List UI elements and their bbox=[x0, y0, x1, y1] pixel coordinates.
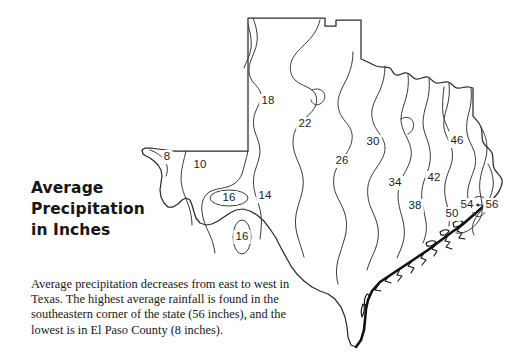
contour-label-22-6: 22 bbox=[299, 117, 312, 129]
contour-label-46-12: 46 bbox=[451, 134, 464, 146]
contour-label-50-13: 50 bbox=[446, 207, 459, 219]
contour-label-26-7: 26 bbox=[336, 154, 349, 166]
contour-label-38-10: 38 bbox=[409, 199, 422, 211]
contour-label-56-15: 56 bbox=[486, 198, 499, 210]
contour-label-16-4: 16 bbox=[236, 230, 249, 242]
contour-label-30-8: 30 bbox=[367, 135, 380, 147]
contour-label-18-5: 18 bbox=[262, 94, 275, 106]
texas-map: 8101614161822263034384246505456 bbox=[140, 4, 524, 356]
contour-label-54-14: 54 bbox=[461, 198, 474, 210]
texas-state-outline bbox=[142, 18, 502, 347]
contour-label-8-0: 8 bbox=[164, 150, 170, 162]
contour-label-42-11: 42 bbox=[428, 171, 441, 183]
precipitation-map-figure: Average Precipitation in Inches Average … bbox=[0, 0, 524, 362]
contour-label-16-2: 16 bbox=[223, 191, 236, 203]
contour-label-10-1: 10 bbox=[194, 158, 207, 170]
contour-label-34-9: 34 bbox=[389, 176, 402, 188]
contour-label-14-3: 14 bbox=[259, 189, 272, 201]
label-leader-dot bbox=[476, 203, 479, 206]
